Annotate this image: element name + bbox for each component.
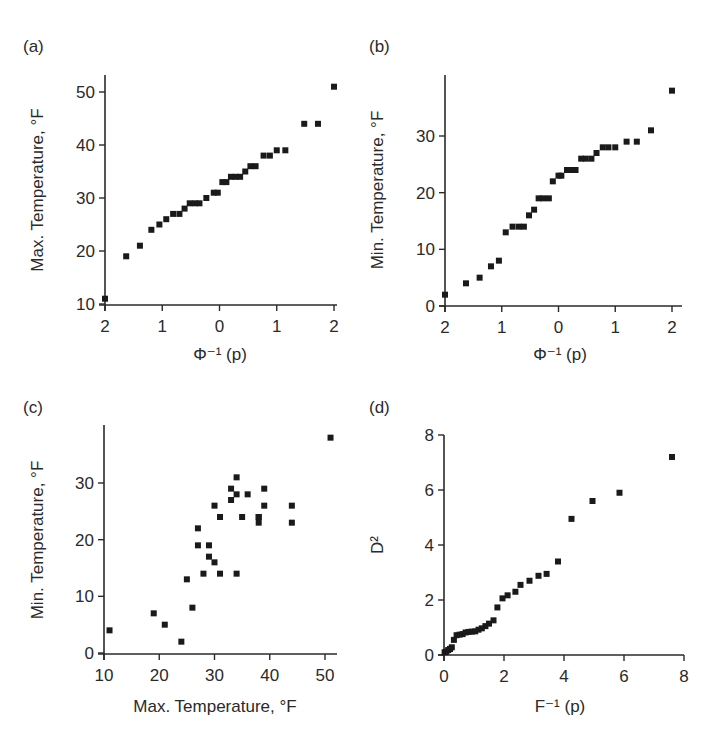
- data-point: [505, 592, 511, 598]
- data-point: [245, 491, 251, 497]
- data-point: [267, 153, 273, 159]
- x-tick-label: 40: [260, 666, 279, 685]
- data-point: [261, 153, 267, 159]
- y-tick-label: 0: [426, 297, 435, 316]
- data-point: [187, 200, 193, 206]
- data-point: [261, 503, 267, 509]
- data-point: [494, 604, 500, 610]
- data-point: [550, 178, 556, 184]
- data-point: [521, 224, 527, 230]
- y-tick-label: 20: [416, 184, 435, 203]
- data-point: [600, 144, 606, 150]
- x-tick-label: 1: [158, 317, 167, 336]
- data-point: [573, 167, 579, 173]
- chart-panel-a: 102030405021012Φ⁻¹ (p)Max. Temperature, …: [28, 75, 339, 364]
- data-point: [156, 222, 162, 228]
- data-point: [634, 139, 640, 145]
- x-tick-label: 1: [611, 318, 620, 337]
- data-point: [215, 190, 221, 196]
- y-axis-label: Min. Temperature, °F: [368, 111, 387, 270]
- data-point: [256, 514, 262, 520]
- y-tick-label: 0: [85, 644, 94, 663]
- data-point: [289, 520, 295, 526]
- x-tick-label: 4: [559, 667, 568, 686]
- data-point: [182, 206, 188, 212]
- data-point: [237, 174, 243, 180]
- data-point: [162, 622, 168, 628]
- data-point: [256, 520, 262, 526]
- data-point: [195, 525, 201, 531]
- data-point: [512, 589, 518, 595]
- plot-canvas: 102030405021012Φ⁻¹ (p)Max. Temperature, …: [0, 0, 717, 748]
- x-tick-label: 8: [679, 667, 688, 686]
- figure: (a) (b) (c) (d) 102030405021012Φ⁻¹ (p)Ma…: [0, 0, 717, 748]
- data-point: [228, 497, 234, 503]
- y-tick-label: 2: [425, 591, 434, 610]
- data-point: [163, 216, 169, 222]
- data-point: [195, 542, 201, 548]
- data-point: [442, 292, 448, 298]
- y-tick-label: 50: [76, 83, 95, 102]
- chart-panel-c: 01020301020304050Max. Temperature, °FMin…: [28, 425, 337, 716]
- data-point: [206, 554, 212, 560]
- x-tick-label: 1: [272, 317, 281, 336]
- data-point: [184, 576, 190, 582]
- data-point: [569, 516, 575, 522]
- chart-panel-b: 010203021012Φ⁻¹ (p)Min. Temperature, °F: [368, 75, 682, 364]
- y-tick-label: 30: [76, 189, 95, 208]
- data-point: [536, 573, 542, 579]
- data-point: [223, 179, 229, 185]
- y-tick-label: 10: [75, 587, 94, 606]
- data-point: [228, 486, 234, 492]
- data-point: [546, 195, 552, 201]
- data-point: [203, 195, 209, 201]
- data-point: [189, 605, 195, 611]
- data-point: [555, 559, 561, 565]
- data-point: [234, 491, 240, 497]
- data-point: [212, 503, 218, 509]
- y-axis-label: Max. Temperature, °F: [28, 108, 47, 271]
- x-tick-label: 2: [499, 667, 508, 686]
- data-point: [491, 617, 497, 623]
- x-tick-label: 30: [205, 666, 224, 685]
- data-point: [510, 224, 516, 230]
- y-tick-label: 0: [425, 646, 434, 665]
- data-point: [234, 571, 240, 577]
- x-tick-label: 10: [95, 666, 114, 685]
- data-point: [617, 490, 623, 496]
- data-point: [612, 144, 618, 150]
- data-point: [544, 571, 550, 577]
- y-tick-label: 10: [76, 295, 95, 314]
- data-point: [148, 227, 154, 233]
- data-point: [102, 296, 108, 302]
- data-point: [488, 263, 494, 269]
- data-point: [558, 173, 564, 179]
- data-point: [253, 163, 259, 169]
- data-point: [516, 224, 522, 230]
- x-tick-label: 0: [554, 318, 563, 337]
- data-point: [239, 514, 245, 520]
- y-tick-label: 30: [416, 127, 435, 146]
- x-tick-label: 2: [329, 317, 338, 336]
- data-point: [669, 88, 675, 94]
- data-point: [463, 280, 469, 286]
- data-point: [477, 275, 483, 281]
- y-tick-label: 20: [76, 242, 95, 261]
- data-point: [196, 200, 202, 206]
- x-axis-label: Max. Temperature, °F: [133, 697, 296, 716]
- data-point: [301, 121, 307, 127]
- y-tick-label: 6: [425, 481, 434, 500]
- data-point: [588, 156, 594, 162]
- data-point: [669, 454, 675, 460]
- data-point: [212, 559, 218, 565]
- data-point: [282, 147, 288, 153]
- x-tick-label: 0: [439, 667, 448, 686]
- data-point: [540, 195, 546, 201]
- x-tick-label: 20: [150, 666, 169, 685]
- data-point: [518, 582, 524, 588]
- data-point: [123, 253, 129, 259]
- x-tick-label: 2: [440, 318, 449, 337]
- data-point: [107, 627, 113, 633]
- x-tick-label: 1: [497, 318, 506, 337]
- data-point: [247, 163, 253, 169]
